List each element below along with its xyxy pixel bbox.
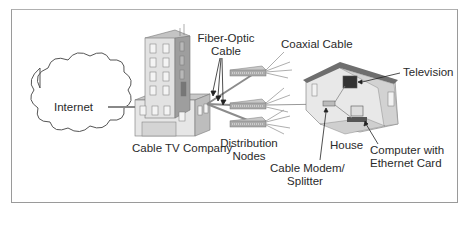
computer-label: Computer with Ethernet Card [370,144,444,170]
cable-modem-label-line1: Cable Modem/ [270,162,340,175]
fiber-optic-label-line1: Fiber-Optic [196,32,256,45]
computer-label-line1: Computer with [370,144,444,157]
internet-cloud [31,53,131,132]
distribution-node [230,66,266,76]
house-label: House [330,139,363,152]
internet-label: Internet [54,101,93,114]
distribution-node [230,99,266,109]
distribution-nodes-label-line1: Distribution [214,137,284,150]
cable-modem-label-line2: Splitter [270,175,340,188]
distribution-nodes [230,66,266,127]
computer-label-line2: Ethernet Card [370,157,444,170]
distribution-nodes-label: Distribution Nodes [214,137,284,163]
coaxial-cable-label: Coaxial Cable [281,38,353,51]
fiber-optic-cable-label: Fiber-Optic Cable [196,32,256,58]
cable-modem-icon [323,101,335,106]
coaxial-cable-fans [266,52,292,134]
house [303,62,398,134]
television-label: Television [403,66,454,79]
cable-modem-splitter-label: Cable Modem/ Splitter [270,162,340,188]
fiber-optic-lines [207,73,255,123]
computer-icon [351,106,363,116]
fiber-optic-label-line2: Cable [196,45,256,58]
fiber-optic-arrows [211,58,226,105]
distribution-node [230,117,266,127]
